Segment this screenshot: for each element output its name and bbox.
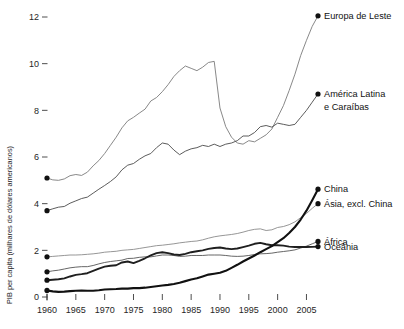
y-tick-label: 2: [34, 246, 39, 256]
series-end-dot: [315, 239, 320, 244]
series-line: [47, 204, 318, 257]
line-chart-plot: 024681012 196019651970197519801985199019…: [0, 0, 404, 329]
series-label: Ásia, excl. China: [324, 199, 393, 209]
x-tick-label: 1975: [123, 305, 143, 315]
chart-container: 024681012 196019651970197519801985199019…: [0, 0, 404, 329]
y-axis-title: PIB per capita (milhares de dólares amer…: [5, 146, 14, 304]
y-tick-label: 8: [34, 106, 39, 116]
x-tick-label: 2005: [296, 305, 316, 315]
x-tick-label: 1995: [239, 305, 259, 315]
series-end-dot: [315, 91, 320, 96]
series-labels: Europa de LesteAmérica Latinae CaraíbasC…: [324, 11, 393, 252]
series-start-dot: [44, 288, 49, 293]
series-lines: [47, 16, 318, 292]
series-label: China: [324, 184, 349, 194]
series-line: [47, 243, 318, 280]
series-end-dot: [315, 244, 320, 249]
series-label: e Caraíbas: [324, 102, 369, 112]
series-label: Europa de Leste: [324, 11, 391, 21]
series-start-dot: [44, 254, 49, 259]
series-end-dot: [315, 13, 320, 18]
series-label: Oceânia: [324, 242, 359, 252]
series-end-dot: [315, 187, 320, 192]
y-tick-label: 0: [34, 292, 39, 302]
series-start-dot: [44, 208, 49, 213]
series-line: [47, 16, 318, 181]
x-tick-label: 1965: [66, 305, 86, 315]
y-axis-title-text: PIB per capita (milhares de dólares amer…: [5, 146, 14, 304]
series-label: América Latina: [324, 89, 386, 99]
y-tick-label: 4: [34, 199, 39, 209]
x-axis: 1960196519701975198019851990199520002005: [37, 294, 316, 315]
x-tick-label: 2000: [268, 305, 288, 315]
series-start-dot: [44, 278, 49, 283]
y-tick-label: 6: [34, 152, 39, 162]
y-tick-label: 10: [29, 59, 39, 69]
y-tick-label: 12: [29, 12, 39, 22]
series-start-dot: [44, 175, 49, 180]
series-line: [47, 189, 318, 292]
series-line: [47, 94, 318, 211]
x-tick-label: 1980: [152, 305, 172, 315]
y-axis: 024681012: [29, 12, 48, 302]
x-tick-label: 1960: [37, 305, 57, 315]
series-end-dot: [315, 201, 320, 206]
series-start-dot: [44, 269, 49, 274]
x-tick-label: 1990: [210, 305, 230, 315]
x-tick-label: 1970: [95, 305, 115, 315]
x-tick-label: 1985: [181, 305, 201, 315]
